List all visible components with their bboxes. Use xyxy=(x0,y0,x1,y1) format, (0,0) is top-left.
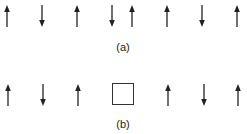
panel-b-label: (b) xyxy=(103,118,143,130)
spin-up-arrow-icon xyxy=(232,5,242,27)
spin-up-arrow-icon xyxy=(72,5,82,27)
spin-up-arrow-icon xyxy=(162,5,172,27)
panel-a-label: (a) xyxy=(103,41,143,53)
spin-up-arrow-icon xyxy=(163,84,173,106)
spin-up-arrow-icon xyxy=(127,5,137,27)
spin-up-arrow-icon xyxy=(3,84,13,106)
spin-up-arrow-icon xyxy=(2,5,12,27)
vacancy-box xyxy=(112,83,134,105)
panel-a: (a) xyxy=(0,0,247,60)
spin-down-arrow-icon xyxy=(107,5,117,27)
spin-up-arrow-icon xyxy=(73,84,83,106)
spin-down-arrow-icon xyxy=(38,84,48,106)
spin-down-arrow-icon xyxy=(37,5,47,27)
panel-b: (b) xyxy=(0,67,247,134)
spin-down-arrow-icon xyxy=(197,5,207,27)
spin-down-arrow-icon xyxy=(199,84,209,106)
spin-up-arrow-icon xyxy=(233,84,243,106)
